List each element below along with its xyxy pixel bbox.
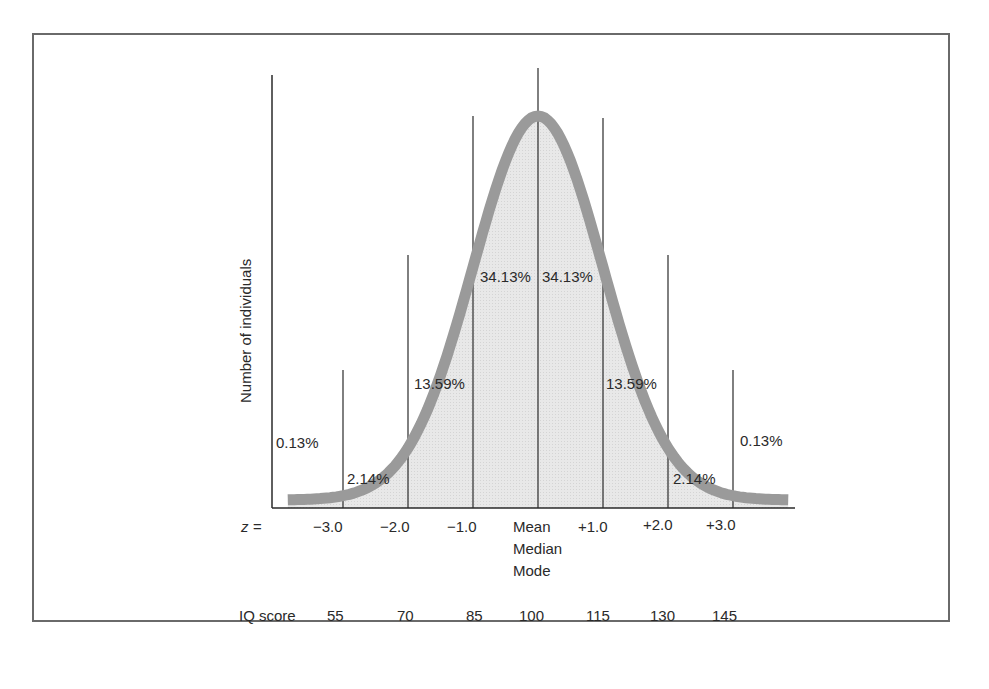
iq-tick: 85 bbox=[466, 607, 483, 624]
iq-label: IQ score bbox=[239, 607, 296, 624]
iq-tick: 55 bbox=[327, 607, 344, 624]
z-tick: +3.0 bbox=[706, 516, 736, 533]
y-axis-label: Number of individuals bbox=[237, 259, 254, 403]
center-label-mean: Mean bbox=[513, 518, 551, 535]
iq-tick: 70 bbox=[397, 607, 414, 624]
iq-tick: 115 bbox=[586, 607, 610, 624]
region-label: 34.13% bbox=[542, 268, 593, 285]
iq-tick: 130 bbox=[650, 607, 675, 624]
z-tick: +1.0 bbox=[578, 518, 608, 535]
region-label: 0.13% bbox=[740, 432, 783, 449]
z-tick: −1.0 bbox=[447, 518, 477, 535]
region-label: 13.59% bbox=[606, 375, 657, 392]
region-label: 2.14% bbox=[673, 470, 716, 487]
center-label-mode: Mode bbox=[513, 562, 551, 579]
z-tick: −3.0 bbox=[313, 518, 343, 535]
region-label: 2.14% bbox=[347, 470, 390, 487]
region-label: 34.13% bbox=[480, 268, 531, 285]
region-label: 0.13% bbox=[276, 434, 319, 451]
z-tick: −2.0 bbox=[380, 518, 410, 535]
z-label: z = bbox=[240, 518, 262, 535]
iq-tick: 100 bbox=[519, 607, 544, 624]
region-label: 13.59% bbox=[414, 375, 465, 392]
iq-tick: 145 bbox=[712, 607, 737, 624]
sd-lines bbox=[343, 68, 733, 508]
z-tick: +2.0 bbox=[643, 516, 673, 533]
normal-distribution-chart: Number of individuals 0.13% 2.14% 13.59%… bbox=[0, 0, 989, 689]
center-label-median: Median bbox=[513, 540, 562, 557]
